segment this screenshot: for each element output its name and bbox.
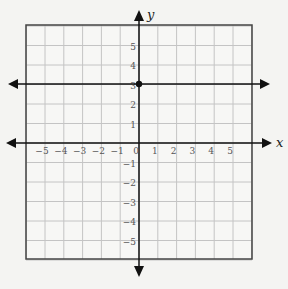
x-tick-label: −2: [92, 146, 105, 156]
x-axis-left-arrow-icon: [6, 138, 16, 148]
x-axis-label: x: [276, 135, 284, 150]
y-tick-label: 2: [130, 100, 136, 110]
x-tick-label: 4: [208, 146, 214, 156]
x-tick-label: 2: [171, 146, 177, 156]
y-axis-up-arrow-icon: [134, 10, 144, 21]
line-left-arrow-icon: [8, 79, 18, 89]
coordinate-plane: x y −5−4−3−2−1012345 54321−1−2−3−4−5: [0, 0, 288, 289]
y-tick-label: 3: [130, 81, 136, 91]
y-tick-label: 1: [130, 120, 136, 130]
y-intercept-point: [136, 81, 142, 87]
y-tick-label: −3: [123, 198, 137, 208]
x-tick-label: 1: [152, 146, 158, 156]
x-tick-label: 0: [133, 146, 139, 156]
x-tick-label: 3: [190, 146, 196, 156]
y-axis-down-arrow-icon: [134, 266, 144, 277]
x-axis-right-arrow-icon: [262, 138, 272, 148]
y-tick-label: −5: [123, 237, 137, 247]
y-axis-label: y: [146, 7, 155, 22]
y-tick-label: −2: [123, 178, 136, 188]
y-tick-label: 5: [130, 42, 136, 52]
x-tick-label: −1: [111, 146, 124, 156]
x-tick-label: −5: [35, 146, 49, 156]
y-tick-label: 4: [130, 61, 136, 71]
y-tick-label: −1: [123, 159, 136, 169]
x-tick-label: −3: [73, 146, 87, 156]
x-tick-label: 5: [227, 146, 233, 156]
y-tick-label: −4: [123, 217, 137, 227]
x-tick-label: −4: [54, 146, 68, 156]
line-right-arrow-icon: [260, 79, 270, 89]
